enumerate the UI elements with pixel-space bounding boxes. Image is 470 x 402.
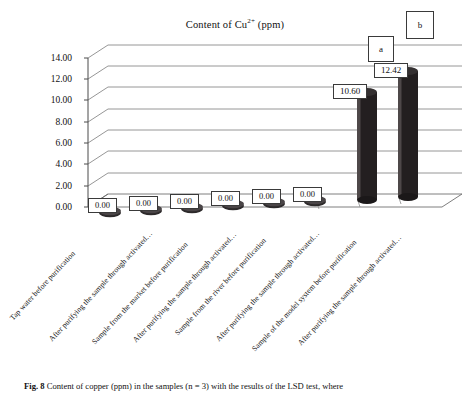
y-tick-label: 4.00: [26, 159, 72, 169]
y-tick-label: 0.00: [26, 202, 72, 212]
figure-content-of-copper: Content of Cu2+ (ppm): [0, 0, 470, 402]
figure-caption-text: Content of copper (ppm) in the samples (…: [47, 381, 344, 391]
data-label: 0.00: [129, 196, 158, 211]
data-label: 0.00: [293, 187, 322, 202]
y-tick-label: 10.00: [26, 95, 72, 105]
x-axis-label: Tap water before purification: [8, 249, 77, 322]
figure-caption-label: Fig. 8: [24, 381, 45, 391]
data-label: 0.00: [252, 189, 281, 204]
y-axis-ticks: [84, 58, 88, 207]
y-tick-label: 14.00: [26, 53, 72, 63]
data-label: 12.42: [374, 63, 408, 78]
data-label: 0.00: [88, 198, 117, 213]
x-axis-labels: Tap water before purification After puri…: [0, 228, 470, 368]
plot-area: 14.00 12.00 10.00 8.00 6.00 4.00 2.00 0.…: [0, 0, 470, 250]
bar-10-60: [357, 88, 377, 204]
significance-letter-b: b: [406, 11, 434, 39]
y-tick-label: 2.00: [26, 181, 72, 191]
y-tick-label: 6.00: [26, 138, 72, 148]
figure-caption: Fig. 8 Content of copper (ppm) in the sa…: [24, 381, 454, 392]
y-tick-label: 8.00: [26, 117, 72, 127]
data-label: 0.00: [170, 194, 199, 209]
data-label: 0.00: [211, 191, 240, 206]
y-tick-label: 12.00: [26, 74, 72, 84]
data-label: 10.60: [333, 84, 367, 99]
x-axis-label: After purifying the sample through activ…: [47, 229, 154, 343]
bar-12-42: [398, 67, 418, 201]
significance-letter-a: a: [368, 36, 394, 62]
